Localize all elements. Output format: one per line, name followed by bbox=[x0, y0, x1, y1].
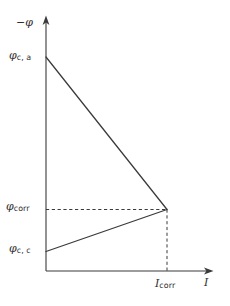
x-tick-label-i-corr: Icorr bbox=[155, 278, 175, 290]
y-axis-title-symbol: φ bbox=[25, 16, 33, 29]
i-corr-subscript: corr bbox=[159, 281, 175, 290]
x-axis-title: I bbox=[204, 277, 208, 288]
evans-diagram-figure: −φ I φc, a φcorr φc, c Icorr bbox=[0, 0, 230, 306]
phi-corr-subscript: corr bbox=[14, 204, 30, 213]
phi-corr-symbol: φ bbox=[6, 200, 14, 213]
anodic-polarisation-curve bbox=[46, 210, 167, 252]
phi-c-c-subscript: c, c bbox=[17, 246, 31, 255]
y-axis bbox=[43, 16, 50, 272]
cathodic-polarisation-curve bbox=[46, 57, 167, 210]
y-tick-label-phi-corr: φcorr bbox=[6, 201, 30, 213]
y-axis-title-prefix: − bbox=[16, 16, 25, 29]
phi-c-a-symbol: φ bbox=[9, 49, 17, 62]
phi-c-c-symbol: φ bbox=[9, 242, 17, 255]
y-tick-label-phi-c-c: φc, c bbox=[9, 243, 31, 255]
x-axis bbox=[46, 268, 214, 275]
y-axis-title: −φ bbox=[16, 17, 33, 28]
plot-canvas bbox=[0, 0, 230, 306]
y-tick-label-phi-c-a: φc, a bbox=[9, 50, 31, 62]
phi-c-a-subscript: c, a bbox=[17, 53, 32, 62]
